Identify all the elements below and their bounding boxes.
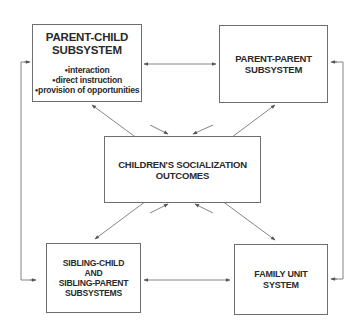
node-title: FAMILY UNIT SYSTEM — [254, 269, 307, 290]
title-line: OUTCOMES — [118, 170, 247, 181]
bullet-list: interaction direct instruction provision… — [35, 65, 140, 95]
title-line: PARENT-PARENT — [235, 53, 312, 64]
title-line: SUBSYSTEMS — [59, 288, 129, 298]
node-parent-child-subsystem: PARENT-CHILD SUBSYSTEM interaction direc… — [32, 24, 142, 102]
node-family-unit-system: FAMILY UNIT SYSTEM — [234, 244, 328, 315]
node-parent-parent-subsystem: PARENT-PARENT SUBSYSTEM — [219, 25, 328, 103]
title-line: CHILDREN'S SOCIALIZATION — [118, 159, 247, 170]
node-title: SIBLING-CHILD AND SIBLING-PARENT SUBSYST… — [59, 258, 129, 298]
title-line: SUBSYSTEM — [46, 44, 128, 57]
node-title: PARENT-CHILD SUBSYSTEM — [46, 31, 128, 57]
bullet-item: provision of opportunities — [35, 85, 140, 95]
node-childrens-socialization-outcomes: CHILDREN'S SOCIALIZATION OUTCOMES — [104, 136, 261, 203]
title-line: FAMILY UNIT — [254, 269, 307, 280]
bullet-item: direct instruction — [35, 75, 140, 85]
arrow-right-loop — [331, 62, 343, 279]
title-line: SYSTEM — [254, 280, 307, 291]
node-sibling-subsystems: SIBLING-CHILD AND SIBLING-PARENT SUBSYST… — [46, 243, 141, 313]
node-title: PARENT-PARENT SUBSYSTEM — [235, 53, 312, 75]
title-line: AND — [59, 268, 129, 278]
node-title: CHILDREN'S SOCIALIZATION OUTCOMES — [118, 159, 247, 181]
title-line: SUBSYSTEM — [235, 64, 312, 75]
title-line: SIBLING-PARENT — [59, 278, 129, 288]
bullet-item: interaction — [35, 65, 140, 75]
title-line: PARENT-CHILD — [46, 31, 128, 44]
title-line: SIBLING-CHILD — [59, 258, 129, 268]
